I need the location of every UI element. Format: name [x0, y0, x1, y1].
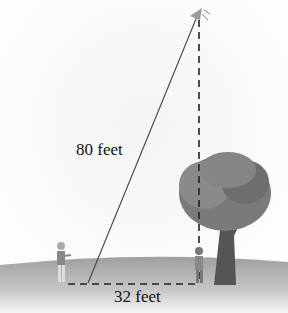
kite-diagram: 80 feet 32 feet — [0, 0, 288, 313]
hypotenuse-label: 80 feet — [76, 140, 123, 160]
base-label: 32 feet — [114, 287, 161, 307]
diagram-graphic — [0, 0, 288, 313]
person-under-kite-icon — [195, 247, 203, 283]
